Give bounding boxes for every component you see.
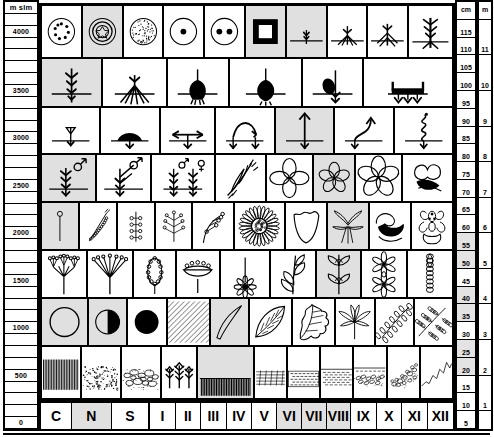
symbol-cell-arrow-down-node[interactable] [41, 107, 100, 153]
symbol-cell-stolon-two-way[interactable] [160, 107, 215, 153]
symbol-cell-conifer-forest[interactable] [161, 346, 198, 399]
symbol-cell-hatched-slope[interactable] [167, 298, 210, 346]
symbol-cell-circle-filled-shade[interactable] [127, 298, 166, 346]
symbol-cell-seed-two-dots[interactable] [204, 5, 245, 58]
column-label-III[interactable]: III [201, 403, 226, 429]
left-axis-tick-0: 0 [5, 417, 37, 429]
column-label-XII[interactable]: XII [428, 403, 453, 429]
right-axis-m-tick [479, 20, 491, 38]
column-label-II[interactable]: II [176, 403, 201, 429]
symbol-cell-twining-climber[interactable] [394, 107, 453, 153]
symbol-cell-leaf-bipinnate[interactable] [414, 298, 453, 346]
symbol-cell-leaf-palmate[interactable] [335, 298, 374, 346]
symbol-cell-flower-labiate[interactable] [369, 202, 411, 250]
column-label-IX[interactable]: IX [351, 403, 376, 429]
symbol-cell-curved-shoot[interactable] [334, 107, 393, 153]
symbol-cell-circle-half-partial-shade[interactable] [88, 298, 127, 346]
symbol-cell-leaves-whorled[interactable] [361, 250, 407, 298]
symbol-cell-flower-5-petal[interactable] [313, 154, 355, 202]
left-axis-tick-1500: 1500 [5, 275, 37, 287]
column-label-N[interactable]: N [72, 403, 112, 429]
column-label-VIII[interactable]: VIII [327, 403, 352, 429]
symbol-cell-flower-orchid[interactable] [411, 202, 453, 250]
symbol-cell-leaves-opposite[interactable] [316, 250, 362, 298]
symbol-cell-gravel-cobbles[interactable] [121, 346, 161, 399]
right-axis-m-tick [479, 127, 491, 145]
column-label-I[interactable]: I [150, 403, 175, 429]
symbol-cell-boulder-field[interactable] [387, 346, 420, 399]
symbol-cell-flower-solitary[interactable] [41, 202, 79, 250]
symbol-cell-square-seed[interactable] [245, 5, 286, 58]
symbol-cell-cushion-mat[interactable] [100, 107, 159, 153]
symbol-cell-rock-bedding[interactable] [254, 346, 287, 399]
right-axis-cm-tick-30: 30 [457, 322, 475, 340]
column-label-S[interactable]: S [112, 403, 150, 429]
symbol-cell-erect-shoot[interactable] [275, 107, 334, 153]
symbol-cell-leaves-alternate[interactable] [270, 250, 316, 298]
right-axis-m-tick [479, 269, 491, 287]
symbol-cell-seed-stippled[interactable] [123, 5, 164, 58]
symbol-cell-circle-open-full-sun[interactable] [41, 298, 88, 346]
symbol-cell-scape-with-rosette-flower[interactable] [220, 250, 270, 298]
symbol-cell-leaf-lobed[interactable] [292, 298, 335, 346]
symbol-cell-flower-campanulate[interactable] [285, 202, 327, 250]
symbol-cell-flower-irregular-lip[interactable] [402, 154, 453, 202]
column-label-XI[interactable]: XI [402, 403, 427, 429]
symbol-cell-leaf-linear[interactable] [210, 298, 249, 346]
symbol-cell-plant-male-arrow[interactable] [96, 154, 151, 202]
symbol-cell-catkin[interactable] [407, 250, 453, 298]
symbol-cell-capitulum-daisy[interactable] [234, 202, 284, 250]
symbol-cell-grass-sward[interactable] [197, 346, 253, 399]
right-axis-m-tick-5: 5 [479, 251, 491, 269]
symbol-cell-screee-fine[interactable] [287, 346, 320, 399]
column-label-VII[interactable]: VII [302, 403, 327, 429]
symbol-cell-spike[interactable] [79, 202, 117, 250]
symbol-cell-seedling-single-root[interactable] [286, 5, 327, 58]
column-label-C[interactable]: C [41, 403, 72, 429]
symbol-cell-seed-many-dots[interactable] [41, 5, 82, 58]
symbol-cell-plant-male[interactable] [41, 154, 96, 202]
symbol-cell-seed-ringed-star[interactable] [82, 5, 123, 58]
symbol-cell-tuber-with-rhizome[interactable] [302, 58, 363, 107]
symbol-cell-cyme[interactable] [192, 202, 234, 250]
symbol-cell-flower-4-petal[interactable] [266, 154, 313, 202]
symbol-cell-water-wet-meadow[interactable] [320, 346, 353, 399]
symbol-cell-leaf-ovate[interactable] [249, 298, 292, 346]
left-axis-tick [5, 346, 37, 358]
symbol-cell-corymb[interactable] [176, 250, 219, 298]
symbol-cell-raceme[interactable] [117, 202, 155, 250]
left-axis-tick [5, 382, 37, 394]
symbol-cell-umbel-simple[interactable] [87, 250, 133, 298]
symbol-cell-rhizome-horizontal[interactable] [363, 58, 453, 107]
symbol-cell-plant-male-female[interactable] [151, 154, 215, 202]
symbol-cell-panicle[interactable] [155, 202, 193, 250]
left-axis-tick [5, 204, 37, 216]
symbol-cell-flower-5-petal-open[interactable] [355, 154, 402, 202]
column-label-IV[interactable]: IV [227, 403, 252, 429]
symbol-cell-hatch-vertical-rock[interactable] [41, 346, 81, 399]
symbol-cell-spadix[interactable] [133, 250, 176, 298]
right-axis-cm-tick-100: 100 [457, 73, 475, 91]
symbol-cell-grass-spikelet[interactable] [215, 154, 266, 202]
column-label-VI[interactable]: VI [277, 403, 302, 429]
column-label-X[interactable]: X [377, 403, 402, 429]
symbol-cell-root-fibrous-spread[interactable] [327, 5, 368, 58]
symbol-cell-bulb-dark[interactable] [167, 58, 228, 107]
symbol-cell-root-taproot-branched[interactable] [408, 5, 453, 58]
symbol-cell-root-branched[interactable] [367, 5, 408, 58]
symbol-cell-root-fasciculate[interactable] [102, 58, 167, 107]
symbol-cell-seed-single-dot[interactable] [163, 5, 204, 58]
column-label-V[interactable]: V [252, 403, 277, 429]
symbol-cell-leaf-pinnate[interactable] [375, 298, 414, 346]
symbol-cell-root-fibrous-deep[interactable] [41, 58, 102, 107]
right-axis-m-tick [479, 233, 491, 251]
symbol-cell-flower-cruciform[interactable] [327, 202, 369, 250]
symbol-cell-mountain-profile[interactable] [420, 346, 453, 399]
symbol-cell-marsh-peat[interactable] [353, 346, 386, 399]
symbol-cell-arching-stem[interactable] [215, 107, 274, 153]
symbol-cell-sand-stipple[interactable] [81, 346, 121, 399]
symbol-cell-umbel-compound[interactable] [41, 250, 87, 298]
symbol-cell-tuber-round[interactable] [229, 58, 302, 107]
right-axis-m-tick-4: 4 [479, 287, 491, 305]
left-axis-tick-2000: 2000 [5, 227, 37, 239]
